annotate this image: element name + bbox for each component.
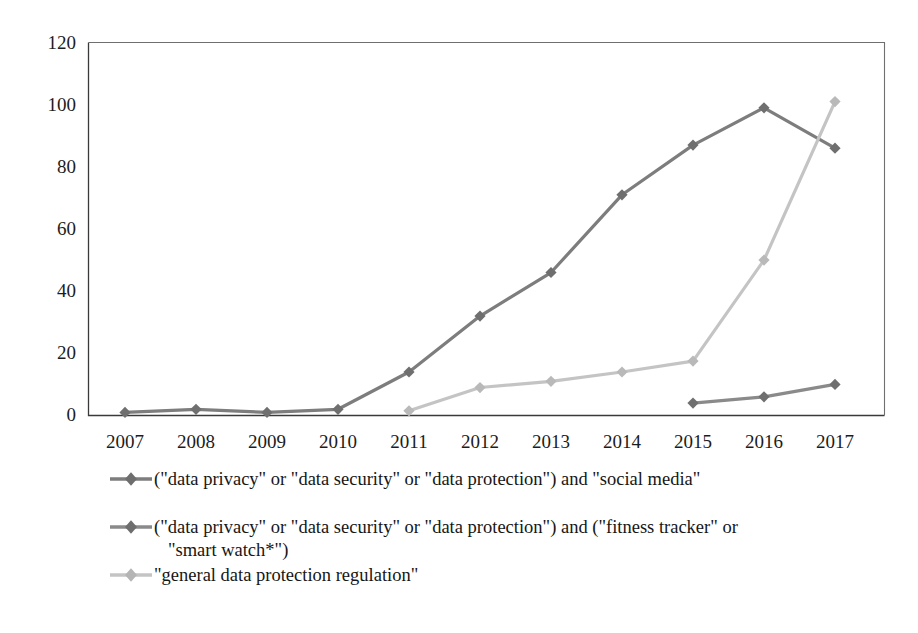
series-layer: [119, 96, 840, 418]
data-point: [261, 407, 272, 418]
y-tick-40: 40: [57, 280, 76, 301]
series-0: [119, 102, 840, 418]
chart-root: 120 100 80 60 40 20 0 2007 2008 2009 201…: [0, 0, 918, 633]
plot-area: 120 100 80 60 40 20 0 2007 2008 2009 201…: [0, 0, 918, 470]
y-tick-80: 80: [57, 156, 76, 177]
series-line: [125, 108, 835, 413]
data-point: [829, 96, 840, 107]
data-point: [545, 376, 556, 387]
x-tick-2007: 2007: [106, 431, 144, 452]
legend-label-gdpr: "general data protection regulation": [154, 564, 418, 587]
data-point: [403, 405, 414, 416]
series-2: [403, 96, 840, 416]
x-tick-2012: 2012: [461, 431, 499, 452]
data-point: [829, 379, 840, 390]
x-tick-2017: 2017: [816, 431, 854, 452]
x-axis-labels: 2007 2008 2009 2010 2011 2012 2013 2014 …: [106, 431, 854, 452]
y-tick-100: 100: [48, 94, 77, 115]
data-point: [616, 366, 627, 377]
line-chart: 120 100 80 60 40 20 0 2007 2008 2009 201…: [0, 0, 918, 470]
legend-label-fitness-tracker: ("data privacy" or "data security" or "d…: [154, 516, 738, 562]
x-tick-2016: 2016: [745, 431, 783, 452]
legend-marker-icon: [108, 518, 154, 540]
series-1: [687, 379, 840, 409]
y-axis-labels: 120 100 80 60 40 20 0: [48, 32, 77, 425]
legend-item-fitness-tracker: ("data privacy" or "data security" or "d…: [108, 516, 908, 562]
data-point: [119, 407, 130, 418]
data-point: [190, 404, 201, 415]
legend-item-gdpr: "general data protection regulation": [108, 564, 908, 588]
y-tick-20: 20: [57, 342, 76, 363]
plot-frame: [89, 43, 885, 416]
chart-legend: ("data privacy" or "data security" or "d…: [108, 468, 908, 592]
data-point: [758, 391, 769, 402]
x-tick-2011: 2011: [390, 431, 427, 452]
x-tick-2008: 2008: [177, 431, 215, 452]
x-tick-2009: 2009: [248, 431, 286, 452]
legend-label-social-media: ("data privacy" or "data security" or "d…: [154, 468, 700, 491]
x-tick-2013: 2013: [532, 431, 570, 452]
y-tick-60: 60: [57, 218, 76, 239]
legend-item-social-media: ("data privacy" or "data security" or "d…: [108, 468, 908, 492]
data-point: [474, 382, 485, 393]
x-tick-2015: 2015: [674, 431, 712, 452]
y-tick-0: 0: [67, 404, 77, 425]
y-tick-120: 120: [48, 32, 77, 53]
series-line: [409, 102, 835, 411]
data-point: [687, 397, 698, 408]
x-tick-2014: 2014: [603, 431, 642, 452]
data-point: [332, 404, 343, 415]
x-tick-2010: 2010: [319, 431, 357, 452]
legend-marker-icon: [108, 566, 154, 588]
legend-marker-icon: [108, 470, 154, 492]
